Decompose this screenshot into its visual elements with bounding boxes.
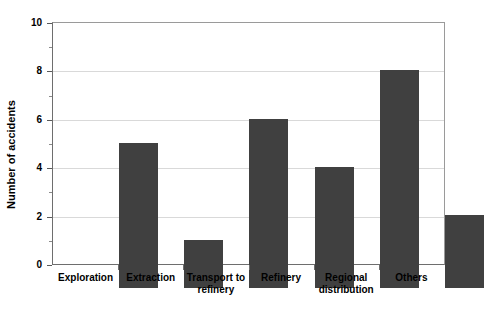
y-axis-tick: [47, 23, 52, 24]
x-axis-category-label: Others: [379, 272, 444, 284]
y-axis-minor-tick: [49, 241, 52, 242]
x-axis-tick: [314, 265, 315, 270]
bars-group: [106, 46, 488, 288]
y-axis-tick: [47, 120, 52, 121]
x-axis-tick: [118, 265, 119, 270]
y-axis-tick: [47, 217, 52, 218]
y-axis-tick: [47, 71, 52, 72]
y-axis-minor-tick: [49, 47, 52, 48]
x-axis-category-label: Refinery: [249, 272, 314, 284]
bar: [380, 70, 419, 288]
y-axis-tick-label: 0: [36, 260, 42, 270]
y-axis-minor-tick: [49, 192, 52, 193]
bar: [315, 167, 354, 288]
x-axis-category-label: Exploration: [53, 272, 118, 284]
y-axis-title: Number of accidents: [0, 0, 22, 309]
y-axis-tick-label: 6: [36, 115, 42, 125]
y-axis-minor-tick: [49, 96, 52, 97]
x-axis-category-label: Transport to refinery: [183, 272, 248, 296]
y-axis-tick-label: 2: [36, 212, 42, 222]
y-axis-tick-label: 8: [36, 66, 42, 76]
bar: [445, 215, 484, 288]
plot-area: [52, 22, 445, 265]
y-axis-tick-label: 4: [36, 163, 42, 173]
x-axis-tick: [249, 265, 250, 270]
y-axis-tick: [47, 168, 52, 169]
y-axis-tick-label: 10: [31, 18, 42, 28]
y-axis-minor-tick: [49, 144, 52, 145]
bar: [249, 119, 288, 288]
bar: [119, 143, 158, 288]
x-axis-tick: [183, 265, 184, 270]
x-axis-tick: [379, 265, 380, 270]
x-axis-category-label: Extraction: [118, 272, 183, 284]
y-axis-tick: [47, 265, 52, 266]
x-axis-category-label: Regional distribution: [314, 272, 379, 296]
